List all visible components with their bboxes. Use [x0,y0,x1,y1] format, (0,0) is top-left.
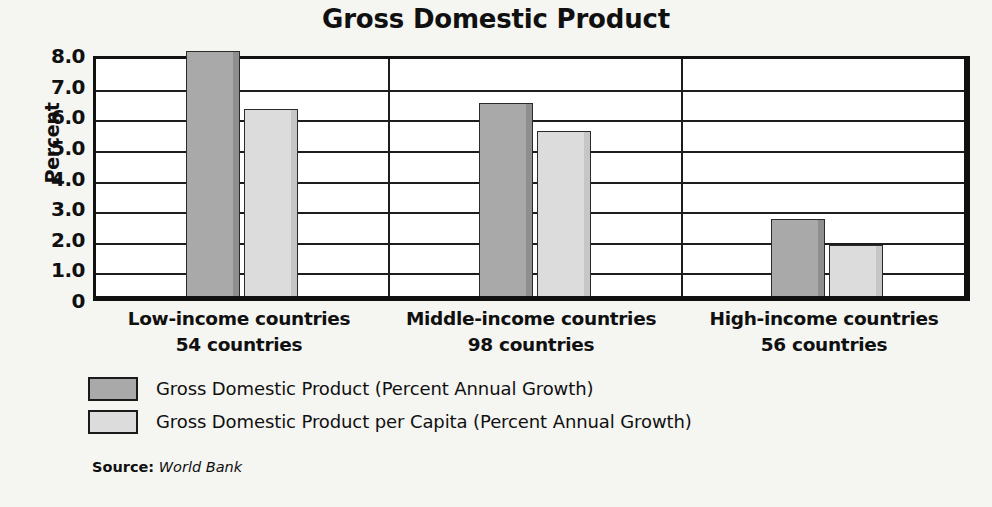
legend-swatch-icon [88,377,138,401]
bar-gdp-per-capita [537,131,591,296]
y-axis-tick-label: 2.0 [1,230,85,250]
category-name: Low-income countries [93,306,385,332]
chart-legend: Gross Domestic Product (Percent Annual G… [88,372,848,438]
y-axis-tick-label: 0 [1,291,85,311]
y-axis-tick-label: 8.0 [1,46,85,66]
y-axis-tick-label: 4.0 [1,169,85,189]
bar-side-shading [876,246,882,296]
y-axis-tick-label: 3.0 [1,199,85,219]
plot-area [93,56,970,301]
x-axis-category-label: High-income countries56 countries [678,306,970,359]
legend-label: Gross Domestic Product per Capita (Perce… [156,411,692,432]
source-note: Source: World Bank [92,459,242,475]
source-label: Source: [92,459,154,475]
bar-gdp-per-capita [829,245,883,296]
x-axis-category-labels: Low-income countries54 countriesMiddle-i… [93,306,970,362]
x-axis-category-label: Low-income countries54 countries [93,306,385,359]
bar-side-shading [233,52,239,296]
category-divider [681,59,683,296]
source-value: World Bank [159,459,242,475]
chart-figure: Gross Domestic Product Percent 8.07.06.0… [0,0,992,507]
y-axis-tick-labels: 8.07.06.05.04.03.02.01.00 [0,56,93,301]
bar-gdp [186,51,240,296]
legend-swatch-icon [88,410,138,434]
bar-gdp [771,219,825,296]
plot-inner [96,59,964,296]
category-count: 54 countries [93,332,385,358]
y-axis-tick-label: 5.0 [1,138,85,158]
legend-item[interactable]: Gross Domestic Product (Percent Annual G… [88,372,848,405]
y-axis-tick-label: 1.0 [1,260,85,280]
category-divider [388,59,390,296]
y-axis-tick-label: 7.0 [1,77,85,97]
bar-gdp-per-capita [244,109,298,296]
category-name: High-income countries [678,306,970,332]
bar-side-shading [291,110,297,296]
x-axis-category-label: Middle-income countries98 countries [385,306,677,359]
legend-label: Gross Domestic Product (Percent Annual G… [156,378,593,399]
category-count: 98 countries [385,332,677,358]
page-title: Gross Domestic Product [0,4,992,34]
bar-side-shading [526,104,532,296]
bar-side-shading [584,132,590,296]
bar-side-shading [818,220,824,296]
category-name: Middle-income countries [385,306,677,332]
y-axis-tick-label: 6.0 [1,107,85,127]
legend-item[interactable]: Gross Domestic Product per Capita (Perce… [88,405,848,438]
bar-gdp [479,103,533,296]
category-count: 56 countries [678,332,970,358]
